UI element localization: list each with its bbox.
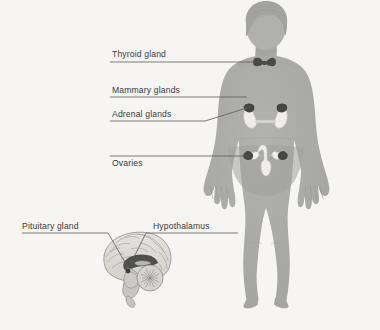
label-hypothalamus: Hypothalamus	[153, 221, 210, 231]
renal-vessels	[256, 120, 275, 123]
organ-pituitary-gland	[126, 269, 131, 274]
label-mammary-glands: Mammary glands	[112, 85, 180, 95]
label-adrenal-glands: Adrenal glands	[112, 109, 171, 119]
label-thyroid-gland: Thyroid gland	[112, 49, 166, 59]
diagram-canvas: Thyroid gland Mammary glands Adrenal gla…	[0, 0, 380, 330]
endocrine-diagram-figure: Thyroid gland Mammary glands Adrenal gla…	[0, 0, 380, 330]
label-pituitary-gland: Pituitary gland	[22, 221, 79, 231]
label-ovaries: Ovaries	[112, 158, 143, 168]
